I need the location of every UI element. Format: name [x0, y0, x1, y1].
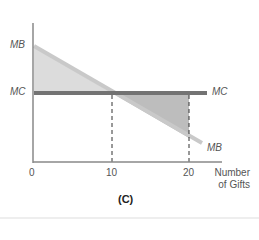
x-axis-label-line2: of Gifts — [210, 179, 250, 190]
x-axis-label-line1: Number — [210, 167, 250, 178]
panel-caption: (C) — [118, 193, 133, 205]
y-label-mc: MC — [10, 86, 26, 97]
x-tick-10: 10 — [106, 167, 117, 178]
mc-line-label: MC — [212, 86, 228, 97]
x-tick-0: 0 — [29, 167, 35, 178]
x-tick-20: 20 — [183, 167, 194, 178]
y-label-mb: MB — [10, 39, 25, 50]
mb-line-label: MB — [207, 142, 222, 153]
